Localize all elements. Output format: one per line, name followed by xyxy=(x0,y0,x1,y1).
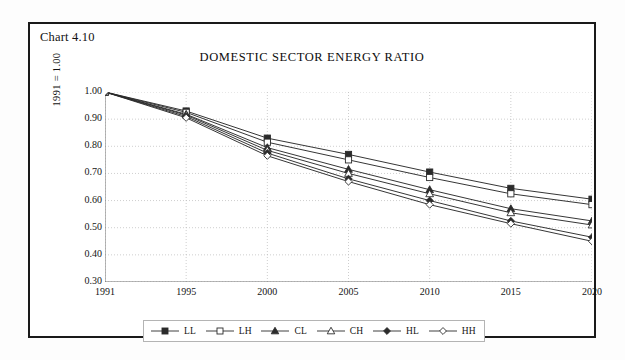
chart-number-label: Chart 4.10 xyxy=(40,30,95,45)
y-tick-label: 0.40 xyxy=(68,248,102,259)
data-point-filled-triangle xyxy=(272,327,280,334)
x-axis-tick-labels: 1991199520002005201020152020 xyxy=(105,286,592,302)
legend-label: CH xyxy=(348,326,366,336)
data-point-open-triangle xyxy=(327,327,335,334)
chart-legend: LLLHCLCHHLHH xyxy=(143,320,485,342)
data-point-open-square xyxy=(345,157,351,163)
y-tick-label: 0.50 xyxy=(68,221,102,232)
y-tick-label: 0.80 xyxy=(68,139,102,150)
chart-page: Chart 4.10 DOMESTIC SECTOR ENERGY RATIO … xyxy=(0,0,625,360)
x-tick-label: 2020 xyxy=(572,286,612,297)
legend-swatch-open-square xyxy=(205,325,235,337)
y-tick-label: 1.00 xyxy=(68,85,102,96)
legend-swatch-filled-triangle xyxy=(260,325,290,337)
chart-frame: Chart 4.10 DOMESTIC SECTOR ENERGY RATIO … xyxy=(28,22,596,338)
x-tick-label: 2000 xyxy=(247,286,287,297)
data-point-filled-square xyxy=(162,328,168,334)
legend-label: HH xyxy=(460,326,478,336)
legend-label: CL xyxy=(292,326,309,336)
y-tick-label: 0.90 xyxy=(68,112,102,123)
legend-entries: LLLHCLCHHLHH xyxy=(144,321,484,341)
x-tick-label: 1991 xyxy=(85,286,125,297)
legend-entry-CH[interactable]: CH xyxy=(316,325,366,337)
y-tick-label: 0.60 xyxy=(68,194,102,205)
legend-swatch-filled-square xyxy=(150,325,180,337)
data-point-filled-diamond xyxy=(383,328,390,335)
y-axis-tick-labels: 1.000.900.800.700.600.500.400.30 xyxy=(62,92,102,282)
data-point-open-diamond xyxy=(439,328,446,335)
y-tick-label: 0.70 xyxy=(68,166,102,177)
legend-swatch-open-diamond xyxy=(428,325,458,337)
data-point-open-square xyxy=(427,174,433,180)
x-tick-label: 2005 xyxy=(329,286,369,297)
legend-entry-CL[interactable]: CL xyxy=(260,325,309,337)
legend-entry-LH[interactable]: LH xyxy=(205,325,254,337)
legend-entry-LL[interactable]: LL xyxy=(150,325,198,337)
plot-svg xyxy=(105,92,592,282)
legend-label: LH xyxy=(237,326,254,336)
legend-entry-HH[interactable]: HH xyxy=(428,325,478,337)
chart-title: DOMESTIC SECTOR ENERGY RATIO xyxy=(30,50,594,65)
x-tick-label: 1995 xyxy=(166,286,206,297)
x-tick-label: 2010 xyxy=(410,286,450,297)
x-tick-label: 2015 xyxy=(491,286,531,297)
legend-label: LL xyxy=(182,326,198,336)
plot-area xyxy=(105,92,592,282)
legend-label: HL xyxy=(404,326,421,336)
data-point-open-square xyxy=(217,328,223,334)
legend-entry-HL[interactable]: HL xyxy=(372,325,421,337)
y-tick-label: 0.30 xyxy=(68,275,102,286)
data-point-open-square xyxy=(508,191,514,197)
legend-swatch-open-triangle xyxy=(316,325,346,337)
legend-swatch-filled-diamond xyxy=(372,325,402,337)
data-point-open-square xyxy=(589,202,592,208)
